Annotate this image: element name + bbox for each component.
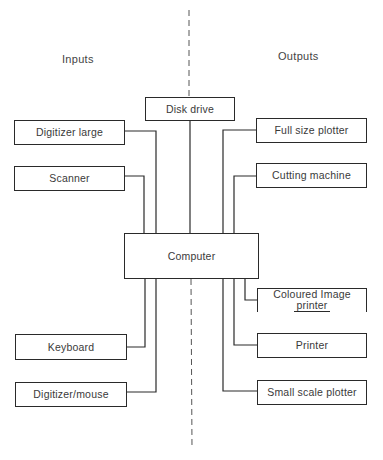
output-printer-node: Printer [257, 333, 367, 358]
output-full-size-plotter-node: Full size plotter [256, 118, 367, 143]
input-keyboard-node: Keyboard [15, 334, 127, 360]
input-label: Digitizer large [36, 127, 103, 138]
disk-drive-label: Disk drive [166, 104, 214, 115]
output-label: Printer [296, 340, 328, 351]
output-label: Cutting machine [272, 170, 351, 181]
output-label: Full size plotter [274, 125, 348, 136]
diagram-canvas: Inputs Outputs Disk drive Computer Digit… [0, 0, 383, 460]
input-label: Scanner [49, 173, 90, 184]
output-label: Small scale plotter [267, 387, 357, 398]
divider-dashed-line-lower [191, 279, 192, 448]
output-small-scale-plotter-node: Small scale plotter [257, 380, 367, 405]
inputs-heading: Inputs [62, 53, 94, 65]
output-cutting-machine-node: Cutting machine [256, 163, 367, 188]
input-label: Keyboard [48, 342, 95, 353]
input-digitizer-mouse-node: Digitizer/mouse [15, 382, 127, 407]
input-scanner-node: Scanner [14, 166, 125, 191]
output-label-line2: printer [294, 300, 329, 312]
computer-label: Computer [168, 251, 216, 262]
outputs-heading: Outputs [278, 50, 319, 62]
disk-drive-node: Disk drive [145, 97, 235, 121]
input-digitizer-large-node: Digitizer large [14, 120, 125, 145]
input-label: Digitizer/mouse [33, 389, 108, 400]
computer-node: Computer [124, 233, 259, 279]
output-coloured-image-printer-node: Coloured Image printer [257, 288, 367, 312]
